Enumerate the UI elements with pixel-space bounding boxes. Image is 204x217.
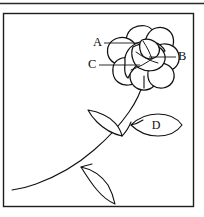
figure-canvas: A B C D bbox=[0, 0, 204, 217]
label-c: C bbox=[88, 57, 96, 71]
lower-left-leaf bbox=[81, 167, 115, 204]
label-a: A bbox=[93, 35, 102, 49]
stem-main-curve bbox=[12, 80, 144, 190]
label-b: B bbox=[178, 49, 186, 63]
lower-left-leaf-stalk bbox=[81, 164, 92, 167]
upper-left-leaf bbox=[88, 110, 122, 136]
stem-group bbox=[12, 80, 144, 190]
upper-left-leaf-stalk bbox=[122, 122, 131, 136]
flower-group bbox=[107, 26, 179, 90]
flower-diagram-svg: A B C D bbox=[0, 0, 204, 217]
label-d: D bbox=[152, 118, 161, 132]
leaves-group bbox=[81, 110, 182, 204]
